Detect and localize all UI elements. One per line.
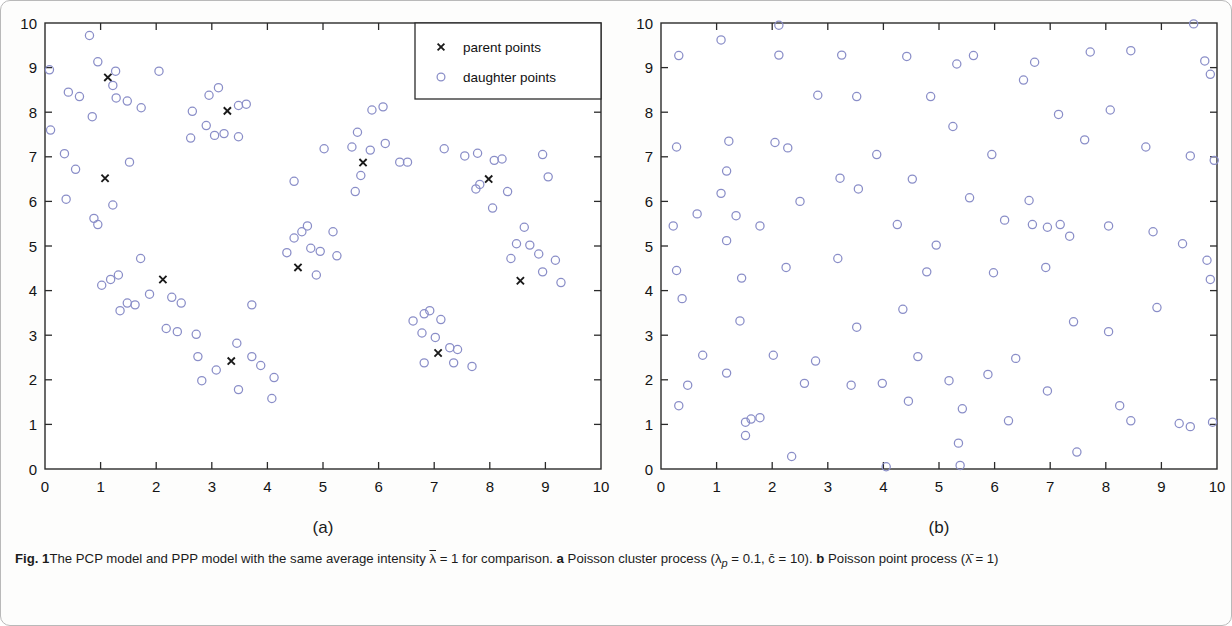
x-tick-label: 9 [1157, 478, 1165, 495]
y-tick-label: 5 [645, 238, 653, 255]
y-tick-label: 7 [29, 148, 37, 165]
x-tick-label: 0 [41, 478, 49, 495]
y-tick-label: 0 [645, 461, 653, 478]
legend-label-parent-points: parent points [463, 40, 541, 55]
caption-marker-a: a [557, 551, 564, 566]
panel-letter-label: (b) [929, 518, 950, 537]
figure-container: 012345678910012345678910parent pointsdau… [0, 0, 1232, 626]
figure-label: Fig. 1 [15, 551, 49, 566]
y-tick-label: 9 [645, 59, 653, 76]
y-tick-label: 9 [29, 59, 37, 76]
caption-lambda-bar: λ [429, 551, 436, 566]
x-tick-label: 2 [152, 478, 160, 495]
x-tick-label: 3 [824, 478, 832, 495]
scatter-plot-a: 012345678910012345678910parent pointsdau… [1, 5, 617, 546]
y-tick-label: 6 [29, 193, 37, 210]
panel-b-poisson-point-process: 012345678910012345678910(b) [617, 5, 1232, 546]
y-tick-label: 10 [636, 15, 653, 32]
y-tick-label: 8 [645, 104, 653, 121]
y-tick-label: 3 [645, 327, 653, 344]
x-tick-label: 7 [1046, 478, 1054, 495]
y-tick-label: 6 [645, 193, 653, 210]
y-tick-label: 1 [645, 416, 653, 433]
x-tick-label: 8 [1102, 478, 1110, 495]
x-tick-label: 6 [990, 478, 998, 495]
x-tick-label: 5 [319, 478, 327, 495]
y-tick-label: 5 [29, 238, 37, 255]
y-tick-label: 3 [29, 327, 37, 344]
x-tick-label: 0 [657, 478, 665, 495]
y-tick-label: 2 [645, 371, 653, 388]
y-tick-label: 4 [29, 282, 37, 299]
y-tick-label: 7 [645, 148, 653, 165]
x-tick-label: 9 [541, 478, 549, 495]
caption-text-a: Poisson cluster process (λ [564, 551, 722, 566]
x-tick-label: 10 [593, 478, 610, 495]
legend-box [415, 23, 601, 99]
x-tick-label: 1 [96, 478, 104, 495]
x-tick-label: 8 [486, 478, 494, 495]
y-tick-label: 4 [645, 282, 653, 299]
x-tick-label: 4 [263, 478, 271, 495]
y-tick-label: 10 [20, 15, 37, 32]
panel-letter-label: (a) [313, 518, 334, 537]
x-tick-label: 5 [935, 478, 943, 495]
caption-text-a2: = 0.1, c̄ = 10). [728, 551, 817, 566]
x-tick-label: 1 [712, 478, 720, 495]
scatter-plot-b: 012345678910012345678910(b) [617, 5, 1232, 546]
caption-text-b: Poisson point process (λ̄ = 1) [824, 551, 998, 566]
y-tick-label: 1 [29, 416, 37, 433]
panel-a-poisson-cluster-process: 012345678910012345678910parent pointsdau… [1, 5, 617, 546]
x-tick-label: 3 [208, 478, 216, 495]
x-tick-label: 10 [1209, 478, 1226, 495]
y-tick-label: 2 [29, 371, 37, 388]
x-tick-label: 6 [374, 478, 382, 495]
x-tick-label: 7 [430, 478, 438, 495]
plot-frame [661, 23, 1217, 469]
legend-label-daughter-points: daughter points [463, 70, 556, 85]
caption-text-1: The PCP model and PPP model with the sam… [49, 551, 429, 566]
x-tick-label: 4 [879, 478, 887, 495]
panels-row: 012345678910012345678910parent pointsdau… [1, 1, 1232, 546]
x-tick-label: 2 [768, 478, 776, 495]
y-tick-label: 0 [29, 461, 37, 478]
figure-caption: Fig. 1The PCP model and PPP model with t… [15, 549, 1221, 571]
y-tick-label: 8 [29, 104, 37, 121]
caption-text-2: = 1 for comparison. [436, 551, 557, 566]
